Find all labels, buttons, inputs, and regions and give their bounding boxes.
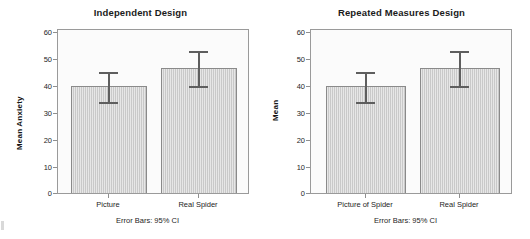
y-axis-ticks-left: 60 50 40 30 20 10 0 — [28, 0, 52, 239]
plot-area-left — [57, 29, 249, 194]
y-tick-label: 40 — [44, 82, 52, 91]
error-bar-footnote-right: Error Bars: 95% CI — [293, 216, 518, 225]
y-axis-label-left: Mean Anxiety — [15, 96, 24, 150]
x-tick-label-real-spider: Real Spider — [439, 200, 478, 209]
error-bar-cap-upper-real-spider — [450, 51, 469, 53]
error-bar-cap-lower-picture — [99, 102, 118, 104]
chart-title-left: Independent Design — [22, 7, 259, 18]
x-tick-mark — [198, 194, 199, 198]
y-tick-label: 40 — [297, 82, 305, 91]
error-bar-stem-real-spider — [459, 51, 461, 87]
error-bar-cap-lower-picture-of-spider — [356, 102, 375, 104]
chart-title-right: Repeated Measures Design — [283, 7, 520, 18]
y-tick-label: 0 — [48, 189, 52, 198]
y-axis-ticks-right: 60 50 40 30 20 10 0 — [281, 0, 305, 239]
x-tick-label-picture-of-spider: Picture of Spider — [337, 200, 392, 209]
y-tick-label: 30 — [44, 109, 52, 118]
x-tick-mark — [365, 194, 366, 198]
y-tick-label: 10 — [297, 163, 305, 172]
plot-inner-right — [311, 30, 511, 193]
error-bar-stem-picture-of-spider — [365, 72, 367, 103]
y-tick-label: 10 — [44, 163, 52, 172]
y-tick-label: 0 — [301, 189, 305, 198]
y-tick-label: 60 — [44, 28, 52, 37]
y-tick-label: 60 — [297, 28, 305, 37]
x-tick-mark — [459, 194, 460, 198]
error-bar-cap-lower-real-spider — [189, 86, 208, 88]
chart-panel-independent-design: Independent Design Mean Anxiety 60 50 40… — [0, 0, 265, 239]
y-tick-label: 30 — [297, 109, 305, 118]
y-tick-label: 20 — [44, 136, 52, 145]
error-bar-stem-real-spider — [198, 51, 200, 87]
y-tick-label: 20 — [297, 136, 305, 145]
error-bar-stem-picture — [108, 72, 110, 103]
error-bar-cap-upper-real-spider — [189, 51, 208, 53]
x-tick-label-picture: Picture — [96, 200, 119, 209]
error-bar-cap-lower-real-spider — [450, 86, 469, 88]
error-bar-footnote-left: Error Bars: 95% CI — [40, 216, 255, 225]
chart-panel-repeated-measures-design: Repeated Measures Design Mean 60 50 40 3… — [265, 0, 530, 239]
y-tick-label: 50 — [44, 55, 52, 64]
spss-chart-figure: Independent Design Mean Anxiety 60 50 40… — [0, 0, 530, 239]
error-bar-cap-upper-picture-of-spider — [356, 72, 375, 74]
page-edge-artifact — [1, 221, 4, 230]
x-tick-mark — [108, 194, 109, 198]
plot-area-right — [310, 29, 512, 194]
error-bar-cap-upper-picture — [99, 72, 118, 74]
plot-inner-left — [58, 30, 248, 193]
y-tick-label: 50 — [297, 55, 305, 64]
x-tick-label-real-spider: Real Spider — [178, 200, 217, 209]
y-axis-label-right: Mean — [271, 100, 280, 121]
